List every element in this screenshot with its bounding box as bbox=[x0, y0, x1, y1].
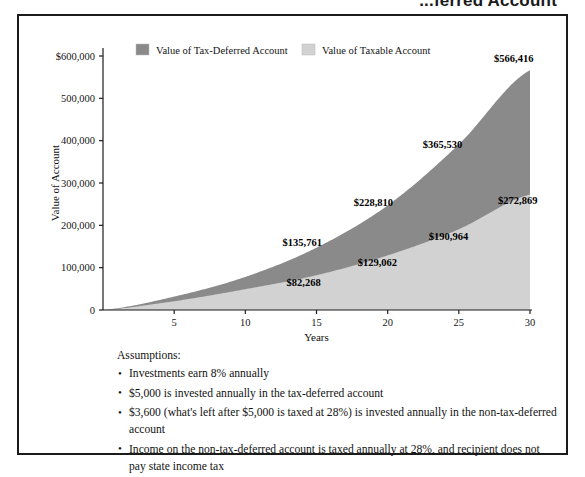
x-axis-tick-label: 15 bbox=[311, 317, 322, 328]
bullet-icon: • bbox=[118, 384, 122, 400]
bullet-icon: • bbox=[118, 404, 122, 420]
x-axis-tick-label: 20 bbox=[382, 317, 393, 328]
legend-swatch bbox=[136, 44, 149, 55]
assumptions-list: • Investments earn 8% annually • $5,000 … bbox=[117, 365, 557, 475]
list-item: • Investments earn 8% annually bbox=[117, 365, 557, 382]
data-value-label: $566,416 bbox=[494, 53, 533, 64]
y-axis-tick-label: 400,000 bbox=[61, 135, 95, 146]
y-axis-tick-label: 100,000 bbox=[61, 262, 95, 273]
page-headline: ...ferred Account bbox=[0, 0, 585, 13]
assumptions-block: Assumptions: • Investments earn 8% annua… bbox=[117, 347, 557, 477]
y-axis-tick-label: 0 bbox=[90, 305, 95, 316]
assumption-text: Investments earn 8% annually bbox=[129, 367, 269, 380]
list-item: • Income on the non-tax-deferred account… bbox=[117, 441, 557, 475]
data-value-label: $129,062 bbox=[358, 257, 397, 268]
legend-label: Value of Tax-Deferred Account bbox=[156, 45, 288, 56]
legend-swatch bbox=[302, 44, 315, 55]
y-axis-tick-label: $600,000 bbox=[56, 51, 95, 62]
data-value-label: $135,761 bbox=[283, 237, 322, 248]
assumption-text: $3,600 (what's left after $5,000 is taxe… bbox=[129, 406, 557, 436]
assumptions-title: Assumptions: bbox=[117, 347, 557, 364]
data-value-label: $228,810 bbox=[354, 197, 393, 208]
list-item: • $5,000 is invested annually in the tax… bbox=[117, 385, 557, 402]
data-value-label: $365,530 bbox=[423, 139, 462, 150]
bullet-icon: • bbox=[118, 440, 122, 456]
figure-frame: 0100,000200,000300,000400,000500,000$600… bbox=[17, 14, 568, 455]
data-value-label: $190,964 bbox=[429, 231, 469, 242]
assumption-text: Income on the non-tax-deferred account i… bbox=[129, 443, 540, 473]
list-item: • $3,600 (what's left after $5,000 is ta… bbox=[117, 404, 557, 438]
x-axis-tick-label: 25 bbox=[454, 317, 465, 328]
x-axis-tick-label: 10 bbox=[240, 317, 251, 328]
data-value-label: $272,869 bbox=[498, 195, 537, 206]
y-axis-tick-label: 200,000 bbox=[61, 220, 95, 231]
data-value-label: $82,268 bbox=[287, 277, 321, 288]
bullet-icon: • bbox=[118, 365, 122, 381]
y-axis-title: Value of Account bbox=[49, 145, 61, 221]
y-axis-tick-label: 500,000 bbox=[61, 93, 95, 104]
y-axis-tick-label: 300,000 bbox=[61, 178, 95, 189]
x-axis-title: Years bbox=[304, 331, 329, 343]
assumption-text: $5,000 is invested annually in the tax-d… bbox=[129, 387, 383, 400]
x-axis-tick-label: 5 bbox=[172, 317, 177, 328]
legend-label: Value of Taxable Account bbox=[322, 45, 430, 56]
x-axis-tick-label: 30 bbox=[525, 317, 536, 328]
